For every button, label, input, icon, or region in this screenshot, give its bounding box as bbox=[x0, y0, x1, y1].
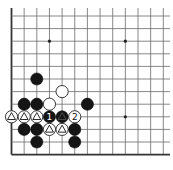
white-stone bbox=[5, 111, 17, 123]
white-stone bbox=[56, 123, 68, 135]
move-number-label: 2 bbox=[72, 112, 78, 122]
star-point-icon bbox=[124, 115, 127, 118]
black-stone bbox=[31, 136, 43, 148]
black-stone bbox=[18, 123, 30, 135]
black-stone-icon bbox=[31, 98, 43, 110]
black-stone bbox=[69, 136, 81, 148]
white-stone bbox=[31, 111, 43, 123]
black-stone-icon bbox=[69, 123, 81, 135]
black-stone bbox=[18, 98, 30, 110]
white-stone: 2 bbox=[69, 111, 81, 123]
black-stone-icon bbox=[31, 123, 43, 135]
black-stone bbox=[31, 73, 43, 85]
black-stone-icon bbox=[31, 136, 43, 148]
black-stone bbox=[69, 123, 81, 135]
white-stone bbox=[18, 111, 30, 123]
move-number-label: 1 bbox=[47, 112, 53, 122]
black-stone-icon bbox=[69, 136, 81, 148]
white-stone-icon bbox=[56, 86, 68, 98]
black-stone: 1 bbox=[43, 111, 55, 123]
black-stone bbox=[31, 123, 43, 135]
star-point-icon bbox=[124, 40, 127, 43]
black-stone-icon bbox=[18, 98, 30, 110]
white-stone bbox=[56, 86, 68, 98]
white-stone-icon bbox=[43, 98, 55, 110]
black-stone bbox=[56, 111, 68, 123]
black-stone bbox=[31, 98, 43, 110]
black-stone-icon bbox=[81, 98, 93, 110]
white-stone bbox=[43, 123, 55, 135]
black-stone-icon bbox=[31, 73, 43, 85]
black-stone-icon bbox=[18, 123, 30, 135]
black-stone bbox=[81, 98, 93, 110]
go-board: 12 bbox=[0, 0, 173, 170]
star-point-icon bbox=[48, 40, 51, 43]
white-stone bbox=[43, 98, 55, 110]
